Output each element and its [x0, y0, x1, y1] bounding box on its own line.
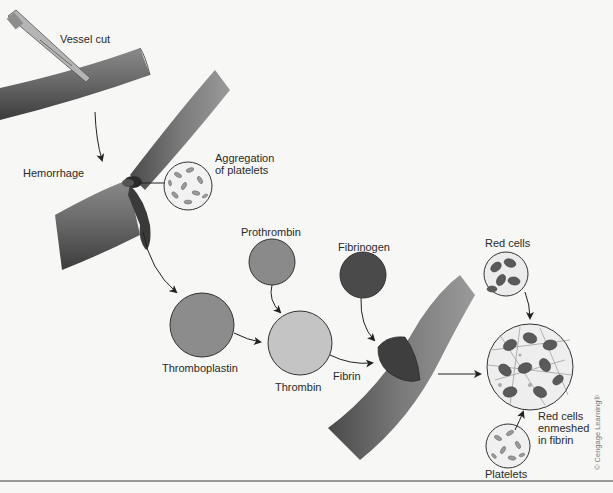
scalpel-icon: [7, 10, 90, 82]
label-red-cells-enmeshed: Red cells enmeshed in fibrin: [538, 410, 589, 446]
label-fibrinogen: Fibrinogen: [338, 241, 390, 253]
red-cells-enmeshed-circle: [487, 324, 573, 410]
label-thromboplastin: Thromboplastin: [162, 362, 238, 374]
label-hemorrhage: Hemorrhage: [23, 167, 84, 179]
prothrombin-circle: [249, 239, 295, 285]
arrow-thromboplastin-to-thrombin: [234, 333, 260, 342]
label-platelets: Platelets: [485, 468, 527, 480]
label-thrombin: Thrombin: [275, 381, 321, 393]
arrow-thrombin-to-fibrin: [330, 355, 372, 363]
thromboplastin-circle: [170, 293, 234, 357]
copyright-notice: © Cengage Learning®: [593, 395, 602, 470]
bottom-divider: [0, 480, 613, 482]
clotting-diagram: Vessel cut Hemorrhage Aggregation of pla…: [0, 0, 613, 493]
arrow-prothrombin-to-thrombin: [271, 285, 280, 312]
label-vessel-cut: Vessel cut: [60, 33, 110, 45]
thrombin-circle: [268, 311, 332, 375]
arrow-fibrinogen-to-fibrin: [361, 298, 374, 340]
label-aggregation-of-platelets: Aggregation of platelets: [215, 152, 274, 176]
clotted-vessel: [328, 275, 475, 460]
platelet-aggregation-circle: [164, 162, 212, 210]
arrow-red-cells-to-enmeshed: [525, 292, 530, 318]
vessel-cut-illustration: [0, 10, 150, 120]
platelets-circle: [486, 424, 530, 468]
fibrinogen-circle: [340, 252, 386, 298]
label-red-cells: Red cells: [485, 237, 530, 249]
red-cells-circle: [484, 252, 528, 296]
label-prothrombin: Prothrombin: [241, 226, 301, 238]
label-fibrin: Fibrin: [333, 370, 361, 382]
arrow-cut-to-hemorrhage: [95, 112, 102, 160]
